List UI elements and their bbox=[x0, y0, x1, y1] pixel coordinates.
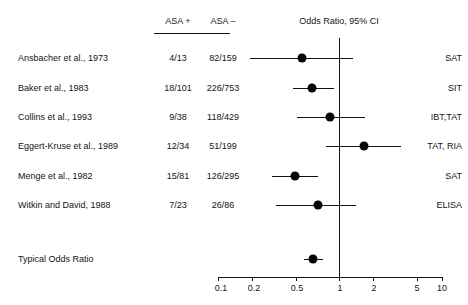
x-axis-tick bbox=[218, 277, 219, 281]
x-axis-tick bbox=[417, 277, 418, 281]
summary-effect-marker bbox=[309, 255, 318, 264]
study-label: Ansbacher et al., 1973 bbox=[18, 53, 108, 63]
study-label: Menge et al., 1982 bbox=[18, 171, 93, 181]
x-axis-tick bbox=[373, 277, 374, 281]
asa-minus-value: 126/295 bbox=[207, 171, 240, 181]
asa-plus-value: 12/34 bbox=[167, 141, 190, 151]
x-axis-tick-label: 0.2 bbox=[248, 283, 261, 293]
asa-plus-value: 9/38 bbox=[169, 112, 187, 122]
x-axis-tick-label: 1 bbox=[337, 283, 342, 293]
null-reference-line bbox=[339, 38, 340, 278]
plot-title: Odds Ratio, 95% CI bbox=[299, 16, 379, 26]
effect-marker bbox=[326, 113, 335, 122]
summary-row-label: Typical Odds Ratio bbox=[18, 254, 94, 264]
x-axis-tick bbox=[252, 277, 253, 281]
effect-marker bbox=[360, 142, 369, 151]
asa-minus-value: 82/159 bbox=[209, 53, 237, 63]
asa-minus-value: 226/753 bbox=[207, 83, 240, 93]
x-axis-tick bbox=[339, 277, 340, 281]
study-label: Witkin and David, 1988 bbox=[18, 200, 111, 210]
study-label: Collins et al., 1993 bbox=[18, 112, 92, 122]
asa-minus-value: 118/429 bbox=[207, 112, 239, 122]
assay-label: SAT bbox=[445, 171, 462, 181]
x-axis-tick bbox=[296, 277, 297, 281]
header-rule bbox=[154, 33, 230, 34]
effect-marker bbox=[298, 54, 307, 63]
asa-plus-value: 18/101 bbox=[164, 83, 192, 93]
asa-plus-value: 15/81 bbox=[167, 171, 190, 181]
asa-plus-value: 7/23 bbox=[169, 200, 187, 210]
x-axis-tick-label: 2 bbox=[371, 283, 376, 293]
forest-plot-figure: ASA + ASA – Odds Ratio, 95% CI Ansbacher… bbox=[0, 0, 468, 305]
x-axis-tick-label: 0.5 bbox=[291, 283, 304, 293]
asa-minus-value: 51/199 bbox=[209, 141, 237, 151]
effect-marker bbox=[308, 84, 317, 93]
study-label: Baker et al., 1983 bbox=[18, 83, 89, 93]
asa-minus-value: 26/86 bbox=[212, 200, 235, 210]
column-header-asa-plus: ASA + bbox=[158, 16, 198, 26]
x-axis-tick-label: 10 bbox=[437, 283, 447, 293]
effect-marker bbox=[291, 172, 300, 181]
assay-label: SAT bbox=[445, 53, 462, 63]
x-axis-tick bbox=[442, 277, 443, 281]
asa-plus-value: 4/13 bbox=[169, 53, 187, 63]
assay-label: SIT bbox=[448, 83, 462, 93]
x-axis-tick-label: 0.1 bbox=[215, 283, 228, 293]
column-header-asa-minus: ASA – bbox=[202, 16, 244, 26]
effect-marker bbox=[314, 201, 323, 210]
x-axis-tick-label: 5 bbox=[414, 283, 419, 293]
assay-label: TAT, RIA bbox=[427, 141, 462, 151]
assay-label: IBT,TAT bbox=[431, 112, 462, 122]
assay-label: ELISA bbox=[436, 200, 462, 210]
study-label: Eggert-Kruse et al., 1989 bbox=[18, 141, 118, 151]
